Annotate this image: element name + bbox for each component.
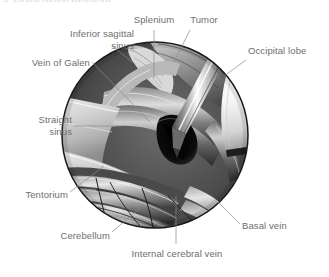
label-inferior-sagittal-sinus-line1: Inferior sagittal [70,28,134,39]
label-occipital-lobe: Occipital lobe [248,45,322,57]
label-splenium: Splenium [130,14,178,26]
label-vein-of-galen: Vein of Galen [20,57,90,69]
label-internal-cerebral-vein: Internal cerebral vein [118,248,236,260]
label-cerebellum: Cerebellum [48,230,110,242]
retractor-blade [221,60,329,157]
label-basal-vein: Basal vein [242,220,304,232]
leader-basal-vein [218,202,240,224]
label-inferior-sagittal-sinus-line2: sinus [111,40,134,51]
leader-occipital-lobe [224,60,246,76]
label-straight-sinus-line2: sinus [49,126,72,137]
label-straight-sinus: Straight sinus [16,114,72,137]
label-tumor: Tumor [186,14,222,26]
label-straight-sinus-line1: Straight [38,114,72,125]
operative-field-of-view [40,40,329,248]
label-tentorium: Tentorium [12,189,68,201]
label-inferior-sagittal-sinus: Inferior sagittal sinus [38,28,134,51]
anatomical-figure: a. Pineal region exposure [0,0,329,277]
